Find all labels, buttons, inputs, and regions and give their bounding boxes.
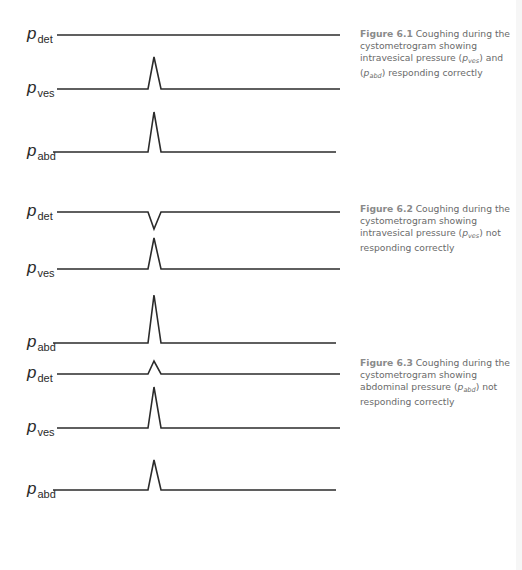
trace-6-3-ves (57, 387, 340, 428)
figure-label: Figure 6.1 (360, 28, 413, 39)
label-6-2-p-abd: pabd (27, 333, 56, 353)
trace-6-1-abd (53, 112, 336, 152)
label-6-1-p-ves: pves (27, 79, 55, 99)
label-6-3-p-abd: pabd (27, 480, 56, 500)
trace-6-3-det (57, 361, 340, 374)
trace-6-2-det (57, 212, 340, 229)
figure-label: Figure 6.2 (360, 203, 413, 214)
caption-figure-6-1: Figure 6.1 Coughing during the cystometr… (360, 28, 520, 82)
trace-6-2-abd (53, 295, 336, 343)
label-6-3-p-det: pdet (27, 364, 53, 384)
trace-6-3-abd (53, 460, 336, 490)
trace-6-1-ves (57, 57, 340, 89)
label-6-2-p-ves: pves (27, 259, 55, 279)
figure-label: Figure 6.3 (360, 357, 413, 368)
label-6-2-p-det: pdet (27, 202, 53, 222)
page-edge (516, 0, 522, 570)
trace-6-2-ves (57, 238, 340, 269)
label-6-1-p-abd: pabd (27, 142, 56, 162)
label-6-3-p-ves: pves (27, 418, 55, 438)
caption-figure-6-2: Figure 6.2 Coughing during the cystometr… (360, 203, 520, 254)
label-6-1-p-det: pdet (27, 25, 53, 45)
caption-figure-6-3: Figure 6.3 Coughing during the cystometr… (360, 357, 520, 408)
